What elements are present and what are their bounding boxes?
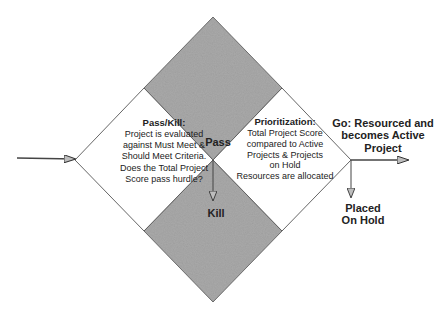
kill-label: Kill: [203, 207, 229, 220]
input-arrow: [17, 158, 75, 159]
prioritization-line: Resources are allocated: [232, 171, 338, 182]
prioritization-line: Total Project Score: [232, 128, 338, 139]
prioritization-description: Prioritization: Total Project Score comp…: [232, 116, 338, 182]
pass-kill-description: Pass/Kill: Project is evaluated against …: [100, 117, 228, 185]
hold-label-line: On Hold: [330, 214, 396, 226]
go-label-line: Go: Resourced and: [330, 117, 436, 129]
hold-label-line: Placed: [330, 202, 396, 214]
prioritization-title: Prioritization:: [232, 116, 338, 128]
go-label-line: becomes Active: [330, 129, 436, 141]
pass-label: Pass: [198, 136, 238, 149]
pass-kill-title: Pass/Kill:: [100, 117, 228, 129]
pass-kill-line: Should Meet Criteria.: [100, 151, 228, 162]
pass-kill-line: Score pass hurdle?: [100, 174, 228, 185]
prioritization-line: compared to Active: [232, 139, 338, 150]
go-label-line: Project: [330, 142, 436, 154]
go-label: Go: Resourced and becomes Active Project: [330, 117, 436, 154]
pass-kill-line: Does the Total Project: [100, 163, 228, 174]
prioritization-line: on Hold: [232, 160, 338, 171]
hold-label: Placed On Hold: [330, 202, 396, 227]
prioritization-line: Projects & Projects: [232, 150, 338, 161]
